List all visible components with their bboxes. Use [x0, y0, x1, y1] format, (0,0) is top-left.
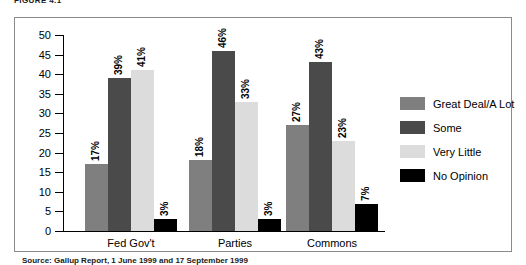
y-axis-tick	[55, 113, 63, 114]
chart-plot-wrapper: 05101520253035404550 17%39%41%3%18%46%33…	[15, 18, 513, 253]
y-axis-tick-label: 35	[15, 89, 51, 100]
y-axis-tick	[55, 211, 63, 212]
bar[interactable]	[332, 141, 355, 231]
legend-color-swatch	[400, 121, 425, 134]
bar-group: 27%43%23%7%	[286, 35, 382, 231]
legend-item[interactable]: Great Deal/A Lot	[400, 94, 514, 113]
legend-item[interactable]: Very Little	[400, 142, 514, 161]
y-axis-tick-label: 50	[15, 30, 51, 41]
bar-group: 18%46%33%3%	[189, 35, 285, 231]
bar[interactable]	[286, 125, 309, 231]
y-axis-tick-label: 40	[15, 69, 51, 80]
chart-frame: 05101520253035404550 17%39%41%3%18%46%33…	[14, 17, 512, 252]
bar-value-label: 39%	[114, 55, 124, 75]
legend-color-swatch	[400, 97, 425, 110]
y-axis-tick-label: 45	[15, 50, 51, 61]
bar-value-label: 17%	[91, 141, 101, 161]
y-axis-tick-label: 15	[15, 167, 51, 178]
y-axis-tick	[55, 55, 63, 56]
y-axis-tick	[55, 153, 63, 154]
legend-label: No Opinion	[433, 170, 488, 182]
bar-value-label: 43%	[315, 39, 325, 59]
y-axis-tick-label: 0	[15, 226, 51, 237]
bar[interactable]	[212, 51, 235, 231]
bar[interactable]	[355, 204, 378, 231]
bar-value-label: 27%	[292, 102, 302, 122]
bar-value-label: 3%	[160, 202, 170, 216]
y-axis-tick	[55, 172, 63, 173]
y-axis-tick	[55, 133, 63, 134]
bar[interactable]	[154, 219, 177, 231]
y-axis-tick-label: 25	[15, 128, 51, 139]
x-axis-category-label: Commons	[266, 237, 398, 249]
legend-label: Some	[433, 122, 462, 134]
x-axis-line	[63, 231, 385, 232]
bar[interactable]	[309, 62, 332, 231]
y-axis-tick-label: 5	[15, 206, 51, 217]
bar[interactable]	[189, 160, 212, 231]
bar-group: 17%39%41%3%	[85, 35, 181, 231]
y-axis-tick	[55, 35, 63, 36]
bar-value-label: 7%	[361, 186, 371, 200]
bar[interactable]	[131, 70, 154, 231]
legend-color-swatch	[400, 145, 425, 158]
bar[interactable]	[85, 164, 108, 231]
bar-value-label: 33%	[241, 79, 251, 99]
legend-item[interactable]: Some	[400, 118, 514, 137]
chart-legend: Great Deal/A LotSomeVery LittleNo Opinio…	[400, 94, 514, 190]
bar[interactable]	[258, 219, 281, 231]
y-axis-tick-label: 10	[15, 187, 51, 198]
bar[interactable]	[108, 78, 131, 231]
y-axis-tick	[55, 192, 63, 193]
legend-item[interactable]: No Opinion	[400, 166, 514, 185]
bar-value-label: 18%	[195, 137, 205, 157]
source-note: Source: Gallup Report, 1 June 1999 and 1…	[22, 256, 248, 265]
y-axis-tick-label: 20	[15, 148, 51, 159]
legend-label: Very Little	[433, 146, 481, 158]
figure-caption: FIGURE 4.1	[14, 0, 62, 5]
legend-color-swatch	[400, 169, 425, 182]
bar[interactable]	[235, 102, 258, 231]
y-axis-tick	[55, 74, 63, 75]
bar-value-label: 46%	[218, 28, 228, 48]
legend-label: Great Deal/A Lot	[433, 98, 514, 110]
bar-value-label: 3%	[264, 202, 274, 216]
bar-value-label: 41%	[137, 47, 147, 67]
y-axis-tick	[55, 94, 63, 95]
bar-value-label: 23%	[338, 118, 348, 138]
y-axis-tick-label: 30	[15, 108, 51, 119]
y-axis-tick	[55, 231, 63, 232]
plot-area: 17%39%41%3%18%46%33%3%27%43%23%7%	[64, 35, 385, 231]
